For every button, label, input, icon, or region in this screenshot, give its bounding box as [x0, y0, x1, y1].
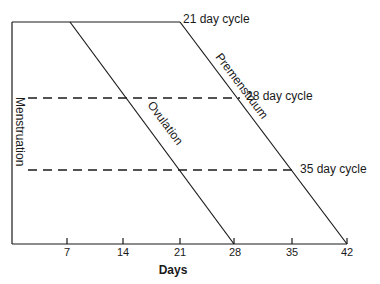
menstrual-cycle-diagram: 7 14 21 28 35 42 Days 21 day cycle 28 da… — [0, 0, 380, 284]
ovulation-label: Ovulation — [145, 98, 186, 147]
tick-label-42: 42 — [341, 246, 353, 258]
menstruation-label: Menstruation — [13, 97, 27, 166]
premenstruum-label: Premenstruum — [213, 50, 272, 121]
ovulation-line — [70, 22, 234, 244]
tick-label-35: 35 — [286, 246, 298, 258]
x-axis-title: Days — [159, 263, 188, 277]
premenstruum-line — [180, 22, 347, 244]
tick-label-7: 7 — [64, 246, 70, 258]
tick-label-21: 21 — [174, 246, 186, 258]
x-axis-ticks — [67, 238, 347, 244]
cycle-35-label: 35 day cycle — [300, 162, 367, 176]
tick-label-28: 28 — [229, 246, 241, 258]
tick-label-14: 14 — [117, 246, 129, 258]
cycle-21-label: 21 day cycle — [183, 12, 250, 26]
